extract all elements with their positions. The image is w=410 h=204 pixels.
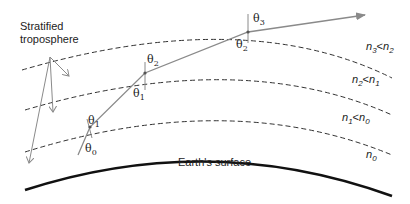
earth-surface-label: Earth's surface [178,156,251,168]
layer-boundary-3 [22,39,392,78]
layer1-index-label: n1<n0 [342,111,370,126]
angle-theta1-upper-label: θ1 [88,114,100,129]
angle-theta1-lower-label: θ1 [133,87,145,102]
refraction-diagram: Stratified troposphere Earth's surface θ… [0,0,410,204]
layer-boundary-2 [25,80,392,115]
layer2-index-label: n2<n1 [352,73,380,88]
layer3-index-label: n3<n2 [366,40,394,55]
angle-theta2-upper-label: θ2 [147,53,159,68]
angle-theta0-label: θ0 [85,142,97,157]
layer0-index-label: n0 [366,148,377,163]
ray-path [78,15,365,155]
normals [87,14,248,138]
troposphere-pointer-arrows [29,57,69,163]
angle-theta3-label: θ3 [253,12,265,27]
stratified-troposphere-label: Stratified troposphere [20,20,79,45]
